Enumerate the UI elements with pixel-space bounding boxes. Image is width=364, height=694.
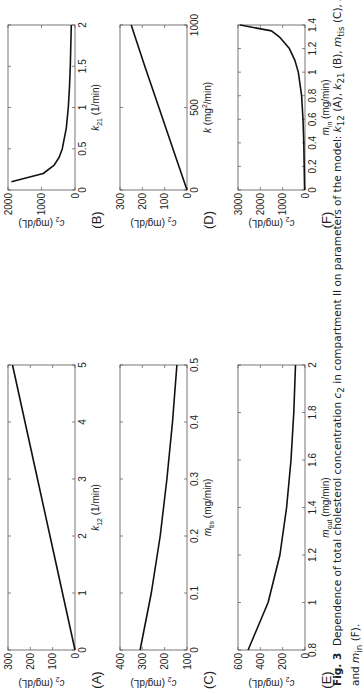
- x-tick-label: 1.2: [307, 41, 318, 55]
- y-tick-label: 1000: [277, 193, 288, 216]
- x-tick-label: 0.4: [307, 135, 318, 149]
- x-tick-label: 0.6: [307, 112, 318, 126]
- y-tick-label: 3000: [233, 193, 244, 216]
- x-tick-label: 0: [307, 187, 318, 193]
- caption-line-1: Fig. 3 Dependence of total cholesterol c…: [330, 6, 348, 686]
- data-line: [240, 25, 304, 190]
- y-tick-label: 2000: [255, 193, 266, 216]
- chart-panel-f: 00.20.40.60.811.21.40100020003000min (mg…: [0, 0, 364, 694]
- y-tick-label: 0: [300, 193, 311, 199]
- caption-line-2: and min (F).: [348, 6, 364, 686]
- figure-label: Fig. 3: [331, 653, 343, 686]
- y-axis-label: c2 (mg/dL): [248, 216, 294, 229]
- x-tick-label: 0.2: [307, 159, 318, 173]
- x-tick-label: 1.4: [307, 18, 318, 32]
- figure-caption: Fig. 3 Dependence of total cholesterol c…: [330, 6, 364, 686]
- x-tick-label: 1: [307, 69, 318, 75]
- x-tick-label: 0.8: [307, 88, 318, 102]
- plot-frame: [238, 25, 305, 190]
- rotated-figure-page: 0123450100200300k12 (1/min)c2 (mg/dL)(A)…: [0, 0, 364, 694]
